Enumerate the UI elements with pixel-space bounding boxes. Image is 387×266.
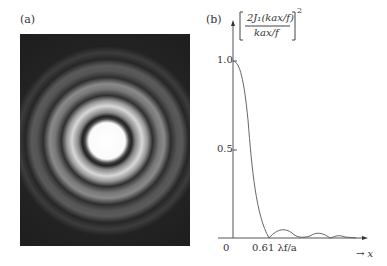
- formula-exponent: 2: [297, 6, 302, 15]
- y-tick-1: 1.0: [217, 54, 233, 65]
- x-axis-label: → x: [356, 248, 373, 259]
- formula-numerator: 2J₁(kax/f): [247, 12, 294, 23]
- first-zero-label: 0.61 λf/a: [252, 242, 297, 253]
- intensity-plot: [0, 0, 387, 266]
- formula-denominator: kax/f: [254, 27, 279, 38]
- origin-label: 0: [223, 242, 229, 253]
- y-tick-05: 0.5: [217, 143, 233, 154]
